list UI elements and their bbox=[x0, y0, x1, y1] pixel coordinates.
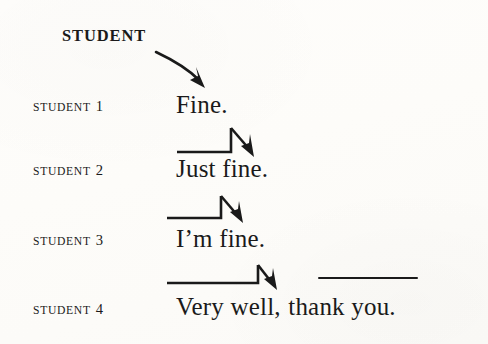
row-label-word: STUDENT bbox=[33, 101, 91, 114]
utterance-student-3: I’m fine. bbox=[176, 226, 265, 251]
utterance-student-4-part2: thank you. bbox=[288, 293, 396, 320]
row-label-word: STUDENT bbox=[33, 304, 91, 317]
elbow-arrow-student3-to-student4 bbox=[167, 265, 277, 290]
row-label-number: 4 bbox=[96, 301, 104, 317]
elbow-arrow-student1-to-student2 bbox=[177, 128, 254, 157]
row-label-number: 3 bbox=[96, 232, 104, 248]
column-header-student: STUDENT bbox=[62, 28, 146, 45]
elbow-arrow-student2-to-student3 bbox=[167, 196, 243, 223]
row-label-word: STUDENT bbox=[33, 235, 91, 248]
row-label-number: 2 bbox=[96, 162, 104, 178]
row-label-student-3: STUDENT3 bbox=[33, 233, 104, 248]
row-label-word: STUDENT bbox=[33, 165, 91, 178]
row-label-student-2: STUDENT2 bbox=[33, 163, 104, 178]
row-label-student-4: STUDENT4 bbox=[33, 302, 104, 317]
utterance-student-1: Fine. bbox=[176, 92, 228, 117]
utterance-student-2: Just fine. bbox=[176, 156, 268, 181]
rule-above-thank-you bbox=[318, 277, 418, 279]
utterance-student-4: Very well,thank you. bbox=[176, 294, 396, 319]
row-label-student-1: STUDENT1 bbox=[33, 99, 104, 114]
student-responses-figure: STUDENT STUDENT1 STUDENT2 STUDENT3 STUDE… bbox=[0, 0, 488, 344]
curved-arrow-header-to-student1 bbox=[156, 52, 205, 88]
utterance-student-4-part1: Very well, bbox=[176, 293, 281, 320]
row-label-number: 1 bbox=[96, 98, 104, 114]
